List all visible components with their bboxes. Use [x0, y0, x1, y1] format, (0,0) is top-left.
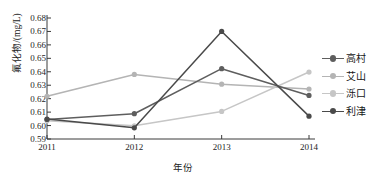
legend-marker-icon	[322, 53, 344, 64]
legend-dot-icon	[330, 73, 336, 79]
data-point	[306, 86, 311, 91]
legend-label: 利津	[346, 106, 366, 117]
legend-label: 高村	[346, 53, 366, 64]
series-line	[47, 69, 309, 120]
data-point	[132, 72, 137, 77]
data-point	[44, 94, 49, 99]
data-point	[219, 109, 224, 114]
series-利津	[44, 29, 311, 131]
data-point	[219, 29, 224, 34]
legend-dot-icon	[330, 90, 336, 96]
data-point	[306, 93, 311, 98]
line-chart: 氟化物/(mg/L) 0.680.670.660.650.640.630.620…	[0, 0, 381, 182]
legend-label: 泺口	[346, 88, 366, 99]
legend-label: 艾山	[346, 71, 366, 82]
series-艾山	[44, 72, 311, 99]
legend-item-4[interactable]: 利津	[322, 105, 366, 118]
chart-legend: 高村艾山泺口利津	[322, 52, 366, 118]
data-point	[219, 66, 224, 71]
data-point	[306, 69, 311, 74]
data-point	[132, 125, 137, 130]
legend-marker-icon	[322, 106, 344, 117]
series-高村	[44, 66, 311, 122]
legend-item-1[interactable]: 高村	[322, 52, 366, 65]
legend-item-3[interactable]: 泺口	[322, 87, 366, 100]
legend-dot-icon	[330, 108, 336, 114]
legend-marker-icon	[322, 71, 344, 82]
x-axis-title: 年份	[52, 160, 314, 174]
data-point	[306, 114, 311, 119]
legend-item-2[interactable]: 艾山	[322, 70, 366, 83]
series-泺口	[44, 69, 311, 128]
legend-dot-icon	[330, 55, 336, 61]
series-line	[47, 31, 309, 127]
data-point	[219, 82, 224, 87]
data-point	[44, 117, 49, 122]
data-point	[132, 111, 137, 116]
legend-marker-icon	[322, 88, 344, 99]
